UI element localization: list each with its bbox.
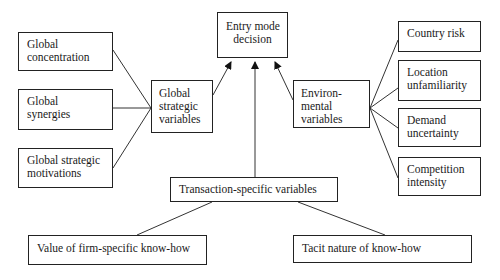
- factor-label-line: concentration: [27, 51, 104, 64]
- transaction-specific-variables-box: Transaction-specific variables: [170, 177, 338, 202]
- factor-label-line: Location: [407, 66, 472, 79]
- global-strategic-motivations-box: Global strategic motivations: [18, 148, 113, 188]
- location-unfamiliarity-box: Location unfamiliarity: [398, 60, 481, 101]
- competition-intensity-box: Competition intensity: [398, 157, 481, 196]
- factor-label-line: Country risk: [407, 27, 472, 40]
- factor-label-line: intensity: [407, 176, 472, 189]
- global-concentration-box: Global concentration: [18, 32, 113, 71]
- entry-mode-diagram: Entry mode decision Global concentration…: [0, 0, 500, 280]
- group-label-line: Transaction-specific variables: [179, 183, 329, 196]
- factor-label-line: Demand: [407, 114, 472, 127]
- entry-mode-label-line-1: Entry mode: [226, 20, 279, 33]
- factor-label-line: Global: [27, 95, 104, 108]
- environmental-variables-box: Environ- mental variables: [293, 80, 370, 128]
- factor-label-line: Tacit nature of know-how: [302, 242, 463, 255]
- factor-label-line: uncertainty: [407, 127, 472, 140]
- factor-label-line: unfamiliarity: [407, 79, 472, 92]
- demand-uncertainty-box: Demand uncertainty: [398, 108, 481, 147]
- factor-label-line: Global: [27, 38, 104, 51]
- group-label-line: Global: [159, 87, 205, 100]
- country-risk-box: Country risk: [398, 21, 481, 52]
- factor-label-line: Competition: [407, 163, 472, 176]
- factor-label-line: motivations: [27, 167, 104, 180]
- factor-label-line: Global strategic: [27, 154, 104, 167]
- global-strategic-variables-box: Global strategic variables: [151, 80, 213, 133]
- factor-label-line: synergies: [27, 108, 104, 121]
- group-label-line: strategic: [159, 100, 205, 113]
- group-label-line: variables: [301, 113, 362, 126]
- group-label-line: variables: [159, 113, 205, 126]
- entry-mode-label-line-2: decision: [226, 33, 279, 46]
- firm-specific-know-how-box: Value of firm-specific know-how: [28, 235, 207, 265]
- group-label-line: Environ-: [301, 87, 362, 100]
- tacit-nature-know-how-box: Tacit nature of know-how: [293, 235, 472, 263]
- global-synergies-box: Global synergies: [18, 89, 113, 130]
- entry-mode-decision-box: Entry mode decision: [217, 12, 288, 58]
- group-label-line: mental: [301, 100, 362, 113]
- factor-label-line: Value of firm-specific know-how: [37, 242, 198, 255]
